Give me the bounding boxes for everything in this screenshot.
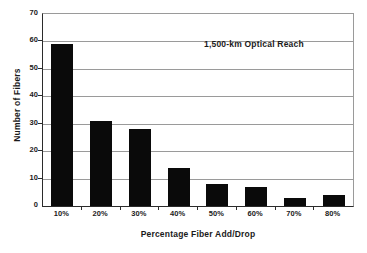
y-tick-label: 0 — [4, 201, 38, 209]
y-axis-title: Number of Fibers — [12, 40, 22, 170]
bar — [51, 44, 73, 206]
bar — [168, 168, 190, 206]
x-tick-label: 60% — [236, 210, 275, 218]
x-tick-mark — [275, 206, 276, 210]
gridline — [43, 69, 353, 70]
plot-annotation: 1,500-km Optical Reach — [204, 39, 304, 49]
x-tick-label: 30% — [120, 210, 159, 218]
y-tick-mark — [38, 40, 42, 41]
x-tick-label: 70% — [275, 210, 314, 218]
x-axis-tick-labels: 10%20%30%40%50%60%70%80% — [42, 210, 354, 224]
x-tick-mark — [120, 206, 121, 210]
x-axis-title: Percentage Fiber Add/Drop — [42, 229, 354, 239]
x-tick-label: 40% — [158, 210, 197, 218]
x-tick-label: 10% — [42, 210, 81, 218]
y-tick-mark — [38, 178, 42, 179]
bar — [90, 121, 112, 206]
x-tick-label: 20% — [81, 210, 120, 218]
y-tick-mark — [38, 95, 42, 96]
y-tick-mark — [38, 68, 42, 69]
bar — [284, 198, 306, 206]
plot-area — [42, 13, 354, 207]
x-tick-label: 80% — [313, 210, 352, 218]
x-tick-mark — [236, 206, 237, 210]
x-tick-label: 50% — [197, 210, 236, 218]
x-tick-mark — [197, 206, 198, 210]
bar — [206, 184, 228, 206]
bar — [323, 195, 345, 206]
y-tick-mark — [38, 123, 42, 124]
y-tick-label: 10 — [4, 174, 38, 182]
gridline — [43, 41, 353, 42]
bar-chart-figure: 010203040506070 10%20%30%40%50%60%70%80%… — [0, 0, 367, 253]
y-tick-label: 70 — [4, 9, 38, 17]
x-tick-mark — [81, 206, 82, 210]
x-tick-mark — [158, 206, 159, 210]
bar — [129, 129, 151, 206]
y-tick-mark — [38, 150, 42, 151]
bar — [245, 187, 267, 206]
x-tick-mark — [313, 206, 314, 210]
gridline — [43, 96, 353, 97]
